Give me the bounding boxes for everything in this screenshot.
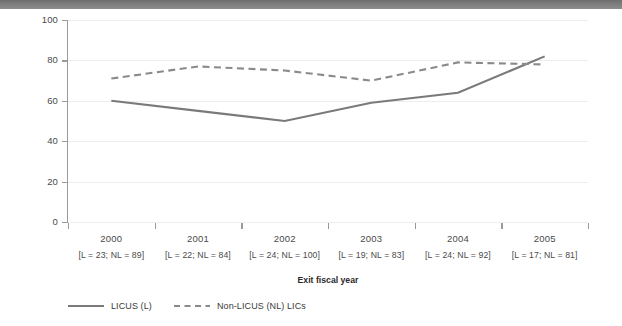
- x-axis-tick: [241, 223, 242, 229]
- y-axis-tick-label: 0: [24, 216, 58, 227]
- chart-legend: LICUS (L) Non-LICUS (NL) LICs: [68, 301, 306, 311]
- legend-label-licus: LICUS (L): [111, 301, 152, 311]
- y-axis-tick-label: 40: [24, 135, 58, 146]
- legend-label-non-licus: Non-LICUS (NL) LICs: [217, 301, 306, 311]
- x-axis-tick: [588, 223, 589, 229]
- line-chart-figure: Percent satisfactory 100806040200 2000[L…: [0, 9, 622, 326]
- series-line-licus: [111, 56, 544, 121]
- x-axis-category-year: 2005: [485, 233, 605, 244]
- x-axis-tick: [501, 223, 502, 229]
- x-axis-category: 2005[L = 17; NL = 81]: [485, 233, 605, 260]
- x-axis-tick: [68, 223, 69, 229]
- legend-item-non-licus: Non-LICUS (NL) LICs: [174, 301, 306, 311]
- legend-dashed-line-icon: [174, 302, 210, 310]
- series-line-non-licus: [111, 62, 544, 80]
- y-axis-tick-label: 60: [24, 95, 58, 106]
- series-lines: [68, 20, 588, 222]
- y-axis-tick-label: 100: [24, 14, 58, 25]
- x-axis-tick: [328, 223, 329, 229]
- x-axis-title: Exit fiscal year: [68, 275, 588, 285]
- y-axis-tick-label: 20: [24, 176, 58, 187]
- legend-solid-line-icon: [68, 302, 104, 310]
- x-axis-tick: [415, 223, 416, 229]
- x-axis-tick: [155, 223, 156, 229]
- header-band: [0, 0, 622, 9]
- y-axis-tick-label: 80: [24, 54, 58, 65]
- legend-item-licus: LICUS (L): [68, 301, 152, 311]
- x-axis-category-sample-size: [L = 17; NL = 81]: [485, 250, 605, 260]
